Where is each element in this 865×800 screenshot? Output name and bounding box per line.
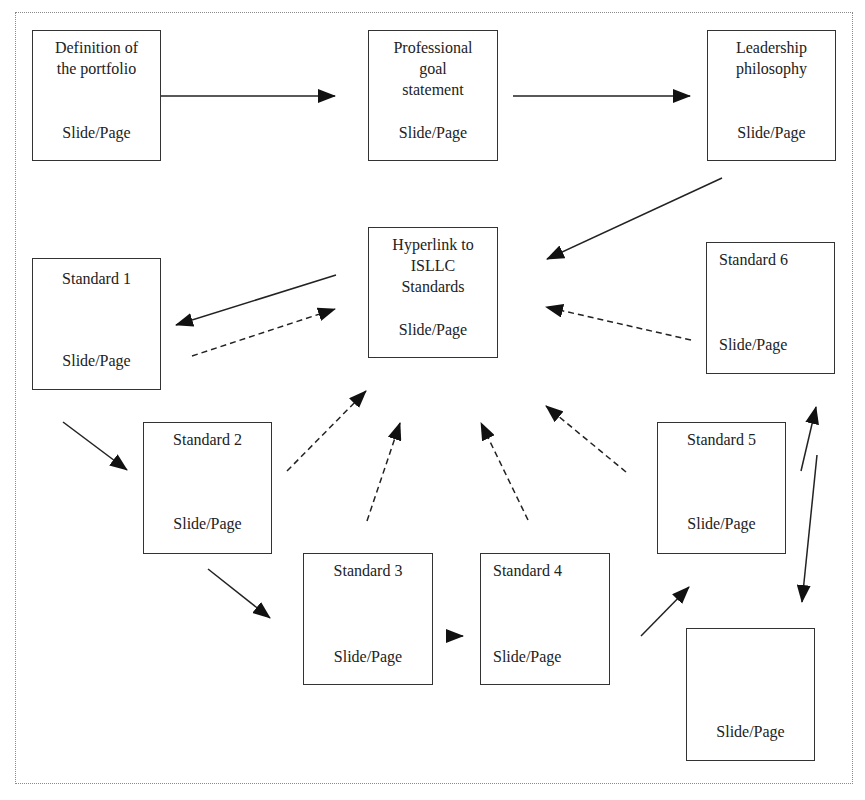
arrow-standard5-to-standard6 — [801, 407, 816, 471]
arrow-standard1-to-hyperlink — [192, 309, 335, 356]
node-standard-4[interactable]: Standard 4 Slide/Page — [480, 553, 610, 685]
node-slide-page: Slide/Page — [369, 123, 497, 143]
arrow-leadership-to-hyperlink — [547, 178, 722, 259]
node-slide-page: Slide/Page — [304, 647, 432, 667]
node-leadership-philosophy[interactable]: Leadership philosophy Slide/Page — [707, 30, 836, 161]
node-title: Professional goal statement — [369, 37, 497, 100]
node-hyperlink-isllc[interactable]: Hyperlink to ISLLC Standards Slide/Page — [368, 227, 498, 358]
node-title: Standard 1 — [33, 268, 160, 289]
node-standard-1[interactable]: Standard 1 Slide/Page — [32, 258, 161, 390]
node-title: Hyperlink to ISLLC Standards — [369, 234, 497, 297]
node-slide-page: Slide/Page — [658, 514, 785, 534]
arrow-standard6-to-hyperlink — [546, 307, 691, 340]
node-slide-page: Slide/Page — [708, 123, 835, 143]
arrow-standard4-to-hyperlink — [481, 423, 528, 520]
arrow-standard1-to-standard2 — [63, 422, 127, 470]
node-professional-goal[interactable]: Professional goal statement Slide/Page — [368, 30, 498, 161]
node-title: Definition of the portfolio — [33, 37, 160, 79]
arrow-standard6-to-final — [802, 455, 817, 602]
node-title: Standard 3 — [304, 560, 432, 581]
node-slide-page: Slide/Page — [369, 320, 497, 340]
arrow-standard4-to-standard5 — [641, 587, 689, 636]
arrow-hyperlink-to-standard1 — [176, 275, 336, 325]
node-title: Standard 5 — [658, 429, 785, 450]
node-slide-page: Slide/Page — [687, 722, 814, 742]
arrow-standard2-to-hyperlink — [287, 391, 366, 471]
node-slide-page: Slide/Page — [481, 647, 609, 667]
arrow-standard5-to-hyperlink — [546, 406, 626, 472]
node-title: Standard 4 — [481, 560, 609, 581]
node-slide-page: Slide/Page — [33, 351, 160, 371]
node-title: Standard 6 — [707, 249, 834, 270]
node-final[interactable]: Slide/Page — [686, 628, 815, 761]
node-standard-2[interactable]: Standard 2 Slide/Page — [143, 422, 272, 554]
arrow-standard3-to-hyperlink — [367, 423, 400, 521]
node-title: Leadership philosophy — [708, 37, 835, 79]
node-title: Standard 2 — [144, 429, 271, 450]
node-standard-5[interactable]: Standard 5 Slide/Page — [657, 422, 786, 554]
node-slide-page: Slide/Page — [144, 514, 271, 534]
node-standard-3[interactable]: Standard 3 Slide/Page — [303, 553, 433, 685]
arrow-standard2-to-standard3 — [208, 569, 270, 618]
node-slide-page: Slide/Page — [707, 335, 834, 355]
node-standard-6[interactable]: Standard 6 Slide/Page — [706, 242, 835, 374]
node-slide-page: Slide/Page — [33, 123, 160, 143]
node-definition[interactable]: Definition of the portfolio Slide/Page — [32, 30, 161, 161]
